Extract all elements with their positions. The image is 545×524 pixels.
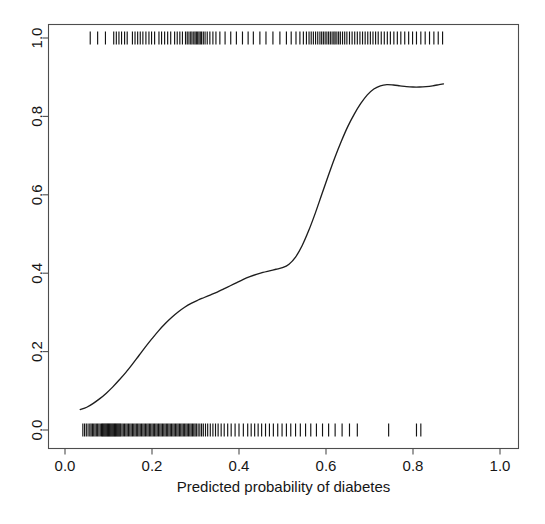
x-axis-title: Predicted probability of diabetes [177, 478, 390, 495]
x-tick-label: 0.2 [142, 457, 163, 474]
y-tick-label: 0.8 [28, 106, 45, 127]
x-tick-label: 0.8 [403, 457, 424, 474]
figure-background [0, 0, 545, 524]
lowess-calibration-plot: 0.00.20.40.60.81.0 0.00.20.40.60.81.0 Pr… [0, 0, 545, 524]
x-tick-label: 0.0 [55, 457, 76, 474]
x-tick-label: 0.4 [229, 457, 250, 474]
y-tick-label: 0.2 [28, 341, 45, 362]
y-tick-label: 0.6 [28, 184, 45, 205]
y-tick-label: 0.4 [28, 263, 45, 284]
x-tick-label: 0.6 [316, 457, 337, 474]
y-tick-label: 0.0 [28, 420, 45, 441]
y-tick-label: 1.0 [28, 28, 45, 49]
x-tick-label: 1.0 [490, 457, 511, 474]
chart-figure: 0.00.20.40.60.81.0 0.00.20.40.60.81.0 Pr… [0, 0, 545, 524]
